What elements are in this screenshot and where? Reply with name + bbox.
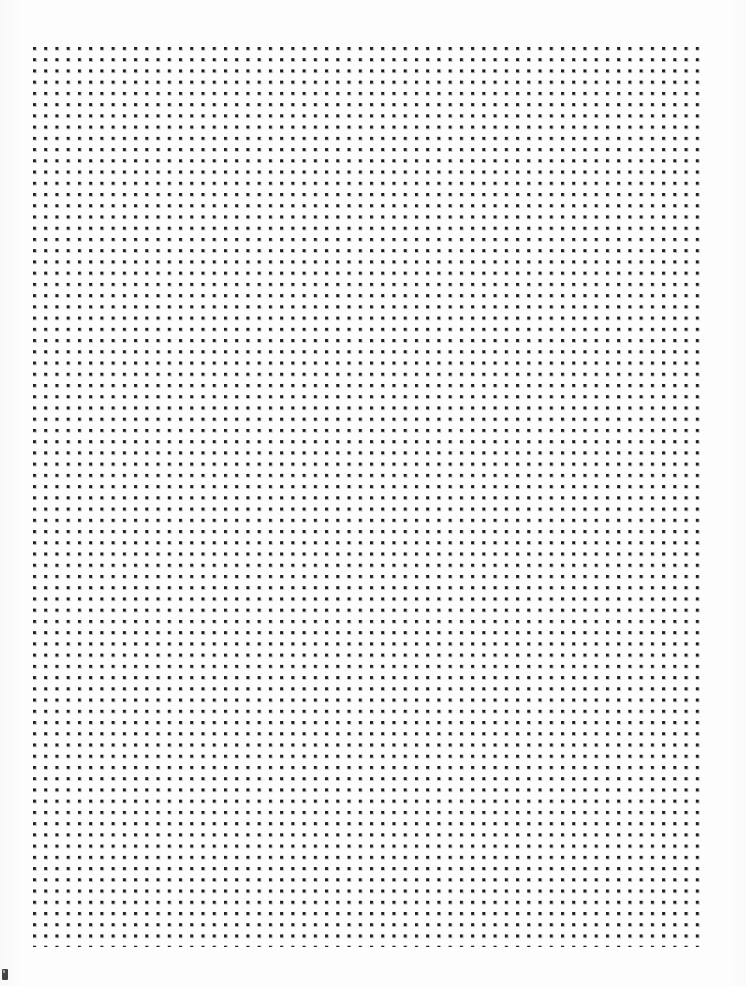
dot-grid	[33, 47, 707, 947]
scan-artifact-icon	[2, 969, 8, 980]
scanned-page	[0, 0, 746, 986]
